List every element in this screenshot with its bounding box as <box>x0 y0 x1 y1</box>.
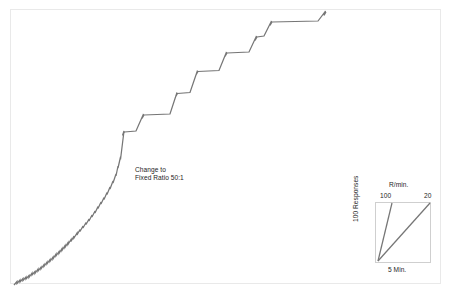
inset-tick-label-20: 20 <box>424 192 431 199</box>
inset-y-axis-label: 100 Responses <box>352 160 359 222</box>
annotation-line-2: Fixed Ratio 50:1 <box>135 174 184 182</box>
cumulative-response-curve <box>14 11 326 285</box>
annotation-line-1: Change to <box>135 166 184 174</box>
cumulative-record-plot <box>0 0 452 293</box>
inset-x-axis-label: 5 Min. <box>388 266 406 273</box>
inset-tick-label-100: 100 <box>380 192 391 199</box>
cumulative-record-figure: Change to Fixed Ratio 50:1 R/min. 100 20… <box>0 0 452 293</box>
inset-title-rate-units: R/min. <box>389 181 408 188</box>
inset-rate-line-20 <box>378 203 430 261</box>
schedule-change-annotation: Change to Fixed Ratio 50:1 <box>135 166 184 183</box>
